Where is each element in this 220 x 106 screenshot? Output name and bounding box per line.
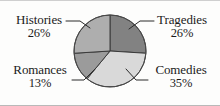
pie-label-romances: Romances 13% [1, 63, 79, 90]
pie-label-tragedies-name: Tragedies [147, 13, 217, 27]
pie-label-tragedies-percent: 26% [147, 27, 217, 40]
pie-label-romances-percent: 13% [1, 77, 79, 90]
pie-label-comedies: Comedies 35% [144, 63, 218, 90]
pie-label-histories-name: Histories [4, 13, 74, 27]
pie-label-histories-percent: 26% [4, 27, 74, 40]
pie-label-comedies-percent: 35% [144, 77, 218, 90]
pie-label-romances-name: Romances [1, 63, 79, 77]
pie-label-tragedies: Tragedies 26% [147, 13, 217, 40]
pie-label-histories: Histories 26% [4, 13, 74, 40]
pie-label-comedies-name: Comedies [144, 63, 218, 77]
pie-chart-figure: Histories 26% Tragedies 26% Romances 13%… [0, 0, 220, 106]
